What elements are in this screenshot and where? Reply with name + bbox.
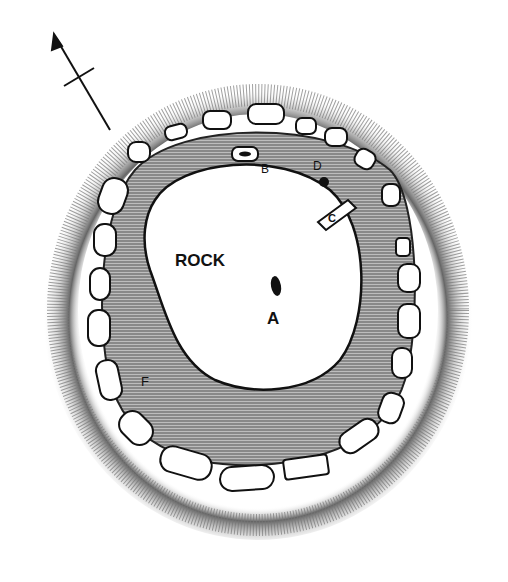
label-a: A — [267, 310, 279, 327]
feature-d-post-hole — [319, 177, 329, 187]
feature-b-center — [239, 152, 251, 157]
north-arrow-icon — [52, 34, 110, 130]
label-c: C — [328, 213, 336, 224]
site-plan-drawing — [0, 0, 508, 582]
label-f: F — [141, 375, 149, 388]
label-d: D — [313, 160, 322, 172]
label-b: B — [261, 163, 269, 175]
label-rock: ROCK — [175, 252, 225, 269]
